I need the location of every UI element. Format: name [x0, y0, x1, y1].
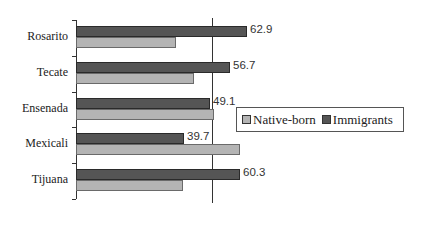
bar-native-born: [76, 73, 194, 84]
chart-legend: Native-born Immigrants: [236, 107, 404, 132]
legend-label-native-born: Native-born: [253, 112, 316, 128]
category-label: Mexicali: [2, 136, 68, 151]
bar-native-born: [76, 109, 214, 120]
native-born-swatch-icon: [242, 115, 251, 124]
legend-item-native-born: Native-born: [242, 112, 316, 128]
value-label: 60.3: [243, 166, 265, 178]
bar-native-born: [76, 37, 176, 48]
legend-item-immigrants: Immigrants: [322, 112, 393, 128]
value-label: 49.1: [213, 95, 235, 107]
category-label: Rosarito: [2, 29, 68, 44]
category-label: Tijuana: [2, 172, 68, 187]
y-axis-tick: [72, 92, 76, 93]
category-label: Ensenada: [2, 101, 68, 116]
bar-immigrants: [76, 169, 240, 180]
category-label: Tecate: [2, 65, 68, 80]
value-label: 39.7: [187, 130, 209, 142]
y-axis-tick: [72, 127, 76, 128]
value-label: 56.7: [233, 59, 255, 71]
immigrants-swatch-icon: [322, 115, 331, 124]
y-axis-tick: [72, 20, 76, 21]
value-label: 62.9: [250, 23, 272, 35]
bar-immigrants: [76, 98, 210, 109]
bar-immigrants: [76, 62, 230, 73]
bar-immigrants: [76, 133, 184, 144]
y-axis-tick: [72, 199, 76, 200]
bar-native-born: [76, 144, 240, 155]
bar-native-born: [76, 180, 183, 191]
legend-label-immigrants: Immigrants: [333, 112, 393, 128]
y-axis-tick: [72, 163, 76, 164]
bar-immigrants: [76, 26, 247, 37]
y-axis-tick: [72, 56, 76, 57]
